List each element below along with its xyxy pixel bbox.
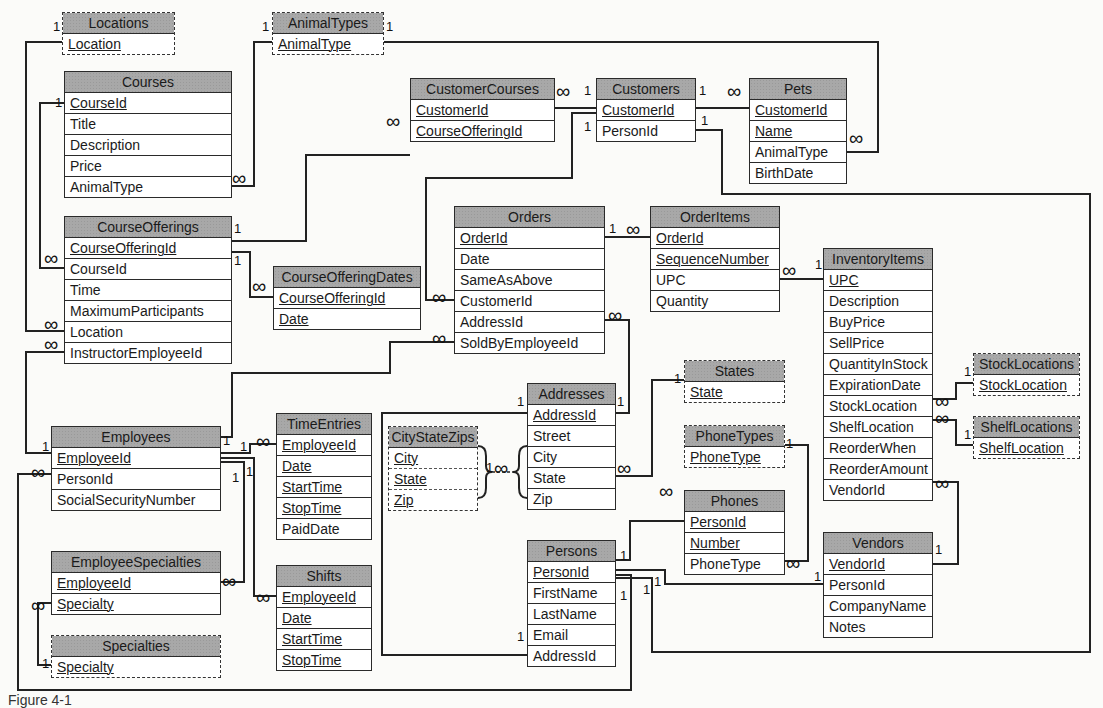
table-courses[interactable]: CoursesCourseIdTitleDescriptionPriceAnim… [64,71,232,198]
table-vendors[interactable]: VendorsVendorIdPersonIdCompanyNameNotes [823,532,933,638]
table-orderitems[interactable]: OrderItemsOrderIdSequenceNumberUPCQuanti… [650,206,780,312]
table-title: Addresses [528,384,615,405]
table-field-key: Specialty [52,594,220,614]
table-title: CustomerCourses [411,79,554,100]
field-name: EmployeeId [282,589,356,605]
table-field-key: State [685,382,784,402]
table-addresses[interactable]: AddressesAddressIdStreetCityStateZip [527,383,616,510]
cardinality-one: 1 [486,461,493,474]
table-field-key: OrderId [455,228,604,249]
field-name: Number [690,535,740,551]
table-phones[interactable]: PhonesPersonIdNumberPhoneType [684,490,785,575]
cardinality-many: ∞ [782,263,796,277]
table-title: CityStateZips [389,427,477,448]
table-title: Vendors [824,533,932,554]
table-specialties[interactable]: SpecialtiesSpecialty [51,635,221,678]
table-customercourses[interactable]: CustomerCoursesCustomerIdCourseOfferingI… [410,78,555,142]
cardinality-one: 1 [55,96,62,109]
table-field-key: StartTime [277,629,371,650]
table-field-key: StockLocation [974,375,1079,395]
field-name: CustomerId [416,102,488,118]
cardinality-many: ∞ [256,590,270,604]
field-name: CourseOfferingId [70,240,176,256]
field-name: Date [282,458,312,474]
table-field-key: Date [277,456,371,477]
table-stocklocations[interactable]: StockLocationsStockLocation [973,353,1080,396]
field-name: AnimalType [70,179,143,195]
table-shelflocations[interactable]: ShelfLocationsShelfLocation [973,416,1080,459]
field-name: Location [68,36,121,52]
table-citystatezips[interactable]: CityStateZipsCityStateZip [388,426,478,511]
field-name: SoldByEmployeeId [460,335,578,351]
table-customers[interactable]: CustomersCustomerIdPersonId [596,78,696,142]
table-field: AddressId [528,646,615,666]
field-name: StopTime [282,652,341,668]
table-phonetypes[interactable]: PhoneTypesPhoneType [684,425,785,468]
table-employees[interactable]: EmployeesEmployeeIdPersonIdSocialSecurit… [51,426,221,511]
table-title: Phones [685,491,784,512]
field-name: BuyPrice [829,314,885,330]
table-title: Locations [63,13,174,34]
table-states[interactable]: StatesState [684,360,785,403]
field-name: Quantity [656,293,708,309]
table-field: SocialSecurityNumber [52,490,220,510]
field-name: EmployeeId [282,437,356,453]
table-field: InstructorEmployeeId [65,343,231,363]
table-field: Description [824,291,932,312]
table-field-key: Zip [389,490,477,510]
field-name: StartTime [282,479,342,495]
table-locations[interactable]: LocationsLocation [62,12,175,55]
table-field: ReorderAmount [824,459,932,480]
field-name: PersonId [829,577,885,593]
cardinality-many: ∞ [432,290,446,304]
table-pets[interactable]: PetsCustomerIdNameAnimalTypeBirthDate [749,78,847,184]
cardinality-one: 1 [935,543,942,556]
table-animaltypes[interactable]: AnimalTypesAnimalType [272,12,384,55]
table-title: InventoryItems [824,249,932,270]
cardinality-one: 1 [654,575,661,588]
table-field: AnimalType [65,177,231,197]
table-title: EmployeeSpecialties [52,552,220,573]
table-field-key: EmployeeId [52,573,220,594]
table-timeentries[interactable]: TimeEntriesEmployeeIdDateStartTimeStopTi… [276,413,372,540]
field-name: Email [533,627,568,643]
field-name: LastName [533,606,597,622]
cardinality-one: 1 [246,465,253,478]
field-name: PersonId [57,471,113,487]
field-name: Location [70,324,123,340]
cardinality-one: 1 [815,258,822,271]
table-field: PersonId [824,575,932,596]
field-name: EmployeeId [57,575,131,591]
table-field: StockLocation [824,396,932,417]
table-title: AnimalTypes [273,13,383,34]
table-employeespecialties[interactable]: EmployeeSpecialtiesEmployeeIdSpecialty [51,551,221,615]
field-name: Date [279,311,309,327]
table-courseofferings[interactable]: CourseOfferingsCourseOfferingIdCourseIdT… [64,216,232,364]
table-field-key: CourseId [65,93,231,114]
table-field: QuantityInStock [824,354,932,375]
cardinality-many: ∞ [31,598,45,612]
cardinality-one: 1 [674,372,681,385]
cardinality-many: ∞ [494,461,508,475]
cardinality-many: ∞ [256,434,270,448]
table-title: CourseOfferingDates [274,267,420,288]
field-name: PersonId [602,123,658,139]
table-field: Email [528,625,615,646]
field-name: PaidDate [282,521,340,537]
field-name: Date [460,251,490,267]
table-shifts[interactable]: ShiftsEmployeeIdDateStartTimeStopTime [276,565,372,671]
table-courseofferingdates[interactable]: CourseOfferingDatesCourseOfferingIdDate [273,266,421,330]
table-field-key: ShelfLocation [974,438,1079,458]
field-name: AddressId [533,648,596,664]
table-inventoryitems[interactable]: InventoryItemsUPCDescriptionBuyPriceSell… [823,248,933,501]
table-persons[interactable]: PersonsPersonIdFirstNameLastNameEmailAdd… [527,540,616,667]
table-title: Specialties [52,636,220,657]
field-name: FirstName [533,585,598,601]
table-orders[interactable]: OrdersOrderIdDateSameAsAboveCustomerIdAd… [454,206,605,354]
table-field: Title [65,114,231,135]
cardinality-many: ∞ [727,84,741,98]
field-name: Zip [533,491,552,507]
cardinality-many: ∞ [44,251,58,265]
table-title: Orders [455,207,604,228]
